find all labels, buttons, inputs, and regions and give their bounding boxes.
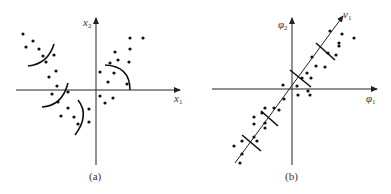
data-point: [310, 55, 313, 58]
data-point: [55, 84, 58, 87]
data-point: [263, 106, 266, 109]
data-point: [277, 108, 280, 111]
cluster-boundary-curve: [75, 100, 83, 135]
data-point: [113, 50, 116, 53]
cluster-boundary-curve: [28, 44, 54, 66]
data-point: [106, 80, 109, 83]
x2-axis-label: x2: [82, 16, 92, 30]
data-point: [98, 70, 101, 73]
data-point: [54, 69, 57, 72]
data-point: [323, 65, 326, 68]
data-point: [352, 36, 355, 39]
pca-diagram: x1 x2 (a) φ1 φ2 v1 (b): [0, 0, 391, 194]
phi1-axis-label: φ1: [366, 92, 376, 106]
data-point: [44, 60, 47, 63]
data-point: [305, 71, 308, 74]
data-point: [263, 126, 266, 129]
data-point: [128, 47, 131, 50]
data-point: [240, 152, 243, 155]
x1-axis-label: x1: [173, 92, 183, 106]
data-point: [87, 120, 90, 123]
data-point: [128, 36, 131, 39]
data-point: [282, 97, 285, 100]
data-point: [314, 64, 317, 67]
data-point: [337, 44, 340, 47]
data-point: [240, 139, 243, 142]
data-point: [309, 76, 312, 79]
data-point: [76, 122, 79, 125]
data-point: [328, 29, 331, 32]
cluster-boundary-curve: [105, 65, 130, 90]
data-point: [66, 90, 69, 93]
data-point: [50, 92, 53, 95]
data-point: [21, 32, 24, 35]
data-point: [66, 106, 69, 109]
projection-divider: [316, 43, 335, 60]
data-point: [59, 114, 62, 117]
data-point: [141, 36, 144, 39]
data-point: [37, 47, 40, 50]
data-point: [308, 93, 311, 96]
v1-axis-label: v1: [343, 8, 352, 22]
data-point: [252, 122, 255, 125]
data-point: [252, 135, 255, 138]
panel-b: φ1 φ2 v1 (b): [212, 8, 377, 183]
data-point: [263, 121, 266, 124]
phi2-axis-label: φ2: [278, 18, 288, 32]
data-point: [127, 60, 130, 63]
data-point: [111, 96, 114, 99]
data-point: [337, 41, 340, 44]
data-point: [232, 144, 235, 147]
data-point: [31, 39, 34, 42]
data-point: [255, 139, 258, 142]
data-point: [296, 93, 299, 96]
data-point: [24, 45, 27, 48]
data-point: [41, 54, 44, 57]
data-point: [112, 71, 115, 74]
data-point: [108, 61, 111, 64]
data-point: [281, 83, 284, 86]
data-point: [334, 53, 337, 56]
data-point: [125, 82, 128, 85]
data-point: [340, 32, 343, 35]
caption-b: (b): [285, 170, 298, 183]
data-points-b: [232, 29, 355, 164]
data-point: [52, 53, 55, 56]
cluster-boundary-curve: [42, 83, 68, 107]
data-point: [72, 115, 75, 118]
caption-a: (a): [89, 170, 102, 183]
projection-divider: [242, 135, 261, 151]
data-point: [87, 107, 90, 110]
data-point: [306, 89, 309, 92]
data-point: [116, 58, 119, 61]
data-point: [238, 161, 241, 164]
data-point: [272, 106, 275, 109]
data-point: [252, 115, 255, 118]
data-point: [103, 101, 106, 104]
panel-a: x1 x2 (a): [16, 16, 183, 183]
data-point: [47, 75, 50, 78]
data-point: [98, 94, 101, 97]
data-point: [295, 84, 298, 87]
